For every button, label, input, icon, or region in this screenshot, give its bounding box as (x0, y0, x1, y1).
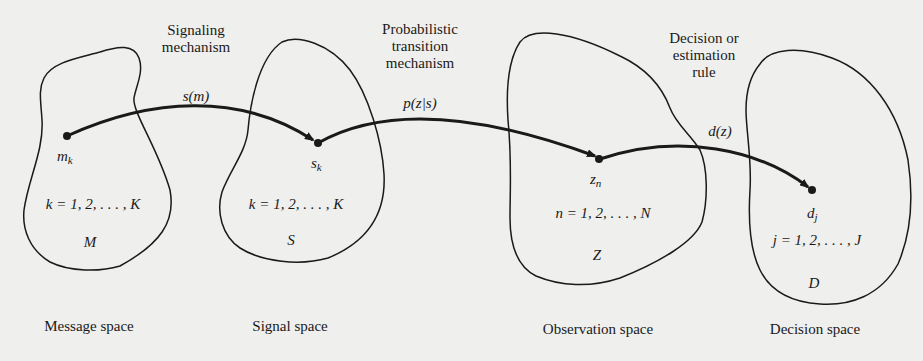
title-line: Signaling (162, 22, 230, 39)
point-subscript: j (815, 211, 818, 223)
caption-signal-space: Signal space (252, 318, 327, 335)
decision-space-region (746, 50, 911, 304)
point-z-n (595, 155, 603, 163)
message-space-region (24, 47, 172, 270)
point-subscript: k (317, 161, 322, 173)
caption-decision-space: Decision space (770, 321, 860, 338)
point-d-j (808, 186, 816, 194)
point-label-d-j: dj (807, 205, 818, 226)
point-label-z-n: zn (590, 171, 601, 192)
signaling-mechanism-title: Signaling mechanism (162, 22, 230, 56)
diagram-shapes (0, 0, 923, 361)
caption-message-space: Message space (44, 318, 134, 335)
set-symbol-Z: Z (593, 247, 601, 264)
caption-observation-space: Observation space (543, 321, 653, 338)
index-range-observation: n = 1, 2, . . . , N (555, 205, 650, 222)
point-label-s-k: sk (311, 155, 322, 176)
title-line: transition (382, 38, 458, 55)
mapping-function-s-of-m: s(m) (183, 88, 210, 105)
set-symbol-S: S (287, 232, 295, 249)
title-line: Probabilistic (382, 21, 458, 38)
point-subscript: n (596, 177, 602, 189)
signal-space-region (220, 39, 384, 262)
decision-rule-title: Decision or estimation rule (669, 30, 739, 81)
mapping-arrow-p-z-given-s (318, 119, 595, 156)
title-line: Decision or (669, 30, 739, 47)
title-line: rule (669, 64, 739, 81)
set-symbol-D: D (809, 275, 820, 292)
probabilistic-transition-title: Probabilistic transition mechanism (382, 21, 458, 72)
index-range-signal: k = 1, 2, . . . , K (249, 196, 343, 213)
title-line: mechanism (162, 39, 230, 56)
signal-detection-diagram: Signaling mechanism s(m) Probabilistic t… (0, 0, 923, 361)
mapping-arrow-s-of-m (67, 106, 313, 140)
point-label-m-k: mk (57, 148, 73, 169)
title-line: estimation (669, 47, 739, 64)
point-base: d (807, 205, 815, 221)
index-range-decision: j = 1, 2, . . . , J (773, 232, 861, 249)
title-line: mechanism (382, 55, 458, 72)
index-range-message: k = 1, 2, . . . , K (46, 196, 140, 213)
point-m-k (63, 132, 71, 140)
point-subscript: k (68, 154, 73, 166)
mapping-function-p-z-given-s: p(z|s) (403, 95, 436, 112)
set-symbol-M: M (84, 234, 97, 251)
mapping-function-d-of-z: d(z) (708, 123, 731, 140)
point-s-k (314, 139, 322, 147)
point-base: m (57, 148, 68, 164)
